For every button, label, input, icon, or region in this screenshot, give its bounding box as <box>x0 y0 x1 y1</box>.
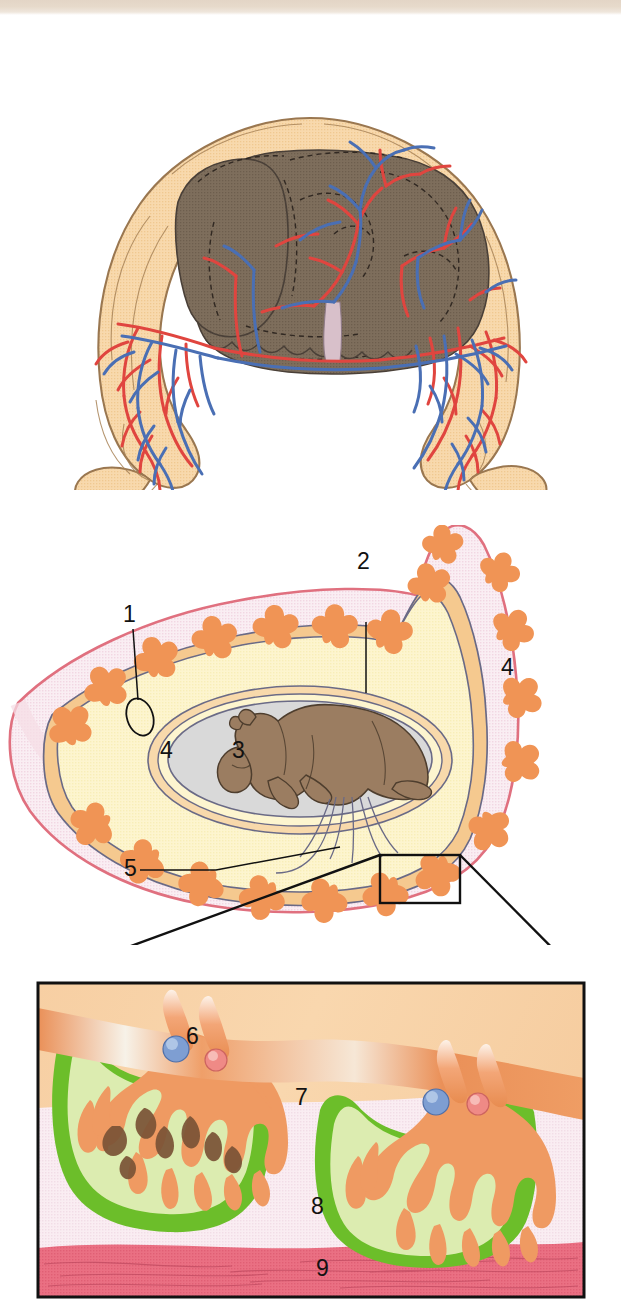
umbilical-stump <box>324 302 342 362</box>
panel-placentome-detail <box>0 980 621 1300</box>
panel-gravid-uterus <box>0 60 621 490</box>
label-6: 6 <box>186 1025 199 1048</box>
label-4-right: 4 <box>501 656 514 679</box>
fetus-mass-group <box>176 150 489 374</box>
label-4-left: 4 <box>160 739 173 762</box>
figure-page: 1 2 3 4 4 5 6 7 8 9 <box>0 0 621 1313</box>
label-9: 9 <box>316 1257 329 1280</box>
label-2: 2 <box>357 550 370 573</box>
label-5: 5 <box>124 857 137 880</box>
panel-uterine-cross-section <box>0 525 621 945</box>
scan-band <box>0 0 621 15</box>
label-3: 3 <box>232 739 245 762</box>
label-8: 8 <box>311 1195 324 1218</box>
label-7: 7 <box>295 1086 308 1109</box>
label-1: 1 <box>123 603 136 626</box>
